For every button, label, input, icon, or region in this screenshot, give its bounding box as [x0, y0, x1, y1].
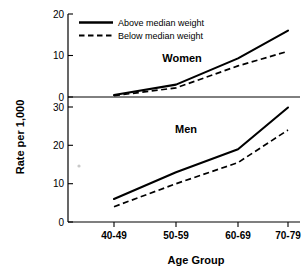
y-axis-title: Rate per 1,000 [14, 100, 26, 175]
men-panel-label: Men [175, 123, 197, 135]
xtick-label-40-49: 40-49 [101, 230, 127, 241]
x-axis-title: Age Group [168, 254, 225, 266]
scan-speck [77, 164, 80, 167]
women-panel-label: Women [162, 52, 202, 64]
women-ytick-label-20: 20 [53, 9, 65, 20]
men-ytick-label-20: 20 [53, 140, 65, 151]
chart-figure: Rate per 1,000 20 10 0 30 20 10 0 [0, 0, 306, 275]
men-ytick-label-0: 0 [58, 217, 64, 228]
chart-background [0, 0, 306, 275]
men-ytick-label-10: 10 [53, 178, 65, 189]
chart-svg: Rate per 1,000 20 10 0 30 20 10 0 [0, 0, 306, 275]
men-ytick-label-30: 30 [53, 102, 65, 113]
legend-label-above-median: Above median weight [118, 18, 205, 28]
xtick-label-70-79: 70-79 [275, 230, 301, 241]
xtick-label-60-69: 60-69 [225, 230, 251, 241]
legend-label-below-median: Below median weight [118, 31, 204, 41]
women-ytick-label-10: 10 [53, 50, 65, 61]
xtick-label-50-59: 50-59 [163, 230, 189, 241]
